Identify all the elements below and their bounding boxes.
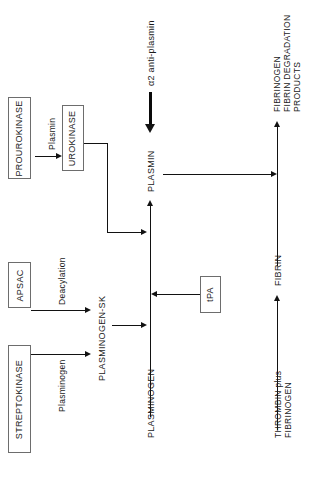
edge-urokinase-elbow-top: [84, 143, 108, 144]
arrowhead-streptokinase-to-plasminogen-sk: [85, 351, 91, 357]
box-prourokinase-label: PROUROKINASE: [15, 100, 24, 176]
edge-fibrin-to-fdp: [277, 126, 278, 266]
edge-prourokinase-to-urokinase: [35, 156, 57, 157]
edge-label-deacylation: Deacylation: [57, 257, 67, 305]
edge-plasmin-to-a2-antiplasmin: [149, 92, 152, 125]
node-label-fdp-line2: FIBRIN DEGRADATION: [282, 15, 292, 112]
box-tpa[interactable]: tPA: [200, 276, 221, 313]
fibrinolysis-diagram: PROUROKINASE UROKINASE APSAC STREPTOKINA…: [0, 0, 317, 477]
arrowhead-urokinase-to-plasmin-path: [141, 229, 147, 235]
node-label-plasminogen: PLASMINOGEN: [146, 369, 157, 438]
node-label-fdp-line3: PRODUCTS: [292, 62, 302, 112]
edge-label-a2-anti-plasmin: α2 anti-plasmin: [146, 20, 157, 86]
edge-plasminogen-sk-to-plasminogen: [112, 325, 142, 326]
edge-label-plasmin: Plasmin: [47, 118, 57, 150]
arrowhead-fibrin-to-fdp: [274, 121, 280, 127]
box-prourokinase[interactable]: PROUROKINASE: [8, 97, 31, 179]
box-streptokinase[interactable]: STREPTOKINASE: [8, 345, 31, 453]
node-label-thrombin-fibrinogen-line1: THROMBIN plus: [273, 371, 283, 438]
node-label-plasmin: PLASMIN: [146, 150, 157, 192]
edge-tpa-to-plasminogen: [157, 294, 200, 295]
node-label-fibrin: FIBRIN: [273, 255, 284, 286]
edge-streptokinase-to-plasminogen-sk: [31, 354, 86, 355]
edge-apsac-to-plasminogen-sk: [31, 310, 86, 311]
node-label-thrombin-fibrinogen-line2: FIBRINOGEN: [283, 382, 293, 438]
box-apsac[interactable]: APSAC: [8, 262, 31, 308]
arrowhead-plasminogen-sk-to-plasminogen: [141, 322, 147, 328]
edge-urokinase-elbow-vertical: [107, 143, 108, 232]
arrowhead-thrombin-to-fibrin: [274, 295, 280, 301]
node-label-plasminogen-sk: PLASMINOGEN-SK: [97, 296, 108, 381]
box-apsac-label: APSAC: [15, 269, 24, 301]
node-label-fdp-line1: FIBRINOGEN: [272, 56, 282, 112]
box-streptokinase-label: STREPTOKINASE: [15, 359, 24, 438]
arrowhead-tpa-to-plasminogen: [151, 291, 157, 297]
edge-urokinase-elbow-bottom: [107, 232, 142, 233]
box-urokinase-label: UROKINASE: [69, 110, 78, 166]
edge-label-plasminogen-substrate: Plasminogen: [57, 360, 67, 412]
arrowhead-plasminogen-to-plasmin: [147, 200, 153, 206]
box-urokinase[interactable]: UROKINASE: [62, 105, 84, 171]
box-tpa-label: tPA: [206, 287, 215, 302]
arrowhead-apsac-to-plasminogen-sk: [85, 307, 91, 313]
arrowhead-plasmin-to-a2-antiplasmin: [145, 124, 155, 133]
edge-plasmin-to-fdp: [163, 174, 273, 175]
arrowhead-prourokinase-to-urokinase: [56, 153, 62, 159]
